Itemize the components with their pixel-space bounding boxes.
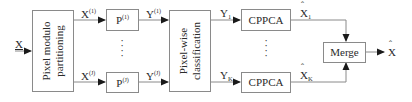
cppca-top-label: CPPCA xyxy=(249,15,284,26)
cppca-bottom-label: CPPCA xyxy=(249,77,284,88)
classification-label: Pixel-wise classification xyxy=(177,22,203,80)
pJ-label: P(J) xyxy=(116,77,128,89)
pixel-modulo-partitioning-block: Pixel modulo partitioning xyxy=(32,10,74,92)
arrow-xhat1 xyxy=(290,20,346,41)
merge-block: Merge xyxy=(323,42,366,63)
pJ-block: P(J) xyxy=(106,72,139,93)
YK-signal-label: YK xyxy=(220,70,233,83)
cppca-bottom-block: CPPCA xyxy=(241,72,291,93)
y1-signal-label: Y(1) xyxy=(146,8,161,20)
cppca-top-block: CPPCA xyxy=(241,9,291,31)
xhat1-signal-label: X1 xyxy=(300,8,311,21)
input-signal-label: X xyxy=(15,39,23,50)
partition-label: Pixel modulo partitioning xyxy=(40,22,66,81)
p1-label: P(1) xyxy=(116,14,129,26)
yJ-signal-label: Y(J) xyxy=(146,70,160,82)
pixel-wise-classification-block: Pixel-wise classification xyxy=(169,10,211,92)
xhatK-signal-label: XK xyxy=(300,70,313,83)
xJ-signal-label: X(J) xyxy=(81,70,95,82)
merge-label: Merge xyxy=(330,47,359,58)
x1-signal-label: X(1) xyxy=(81,8,96,20)
arrow-xhatK xyxy=(290,63,346,82)
vertical-ellipsis-p: ···· xyxy=(120,38,124,58)
Y1-signal-label: Y1 xyxy=(220,8,231,21)
p1-block: P(1) xyxy=(106,9,139,31)
output-signal-label: X xyxy=(388,47,396,58)
vertical-ellipsis-cppca: ···· xyxy=(264,38,268,58)
